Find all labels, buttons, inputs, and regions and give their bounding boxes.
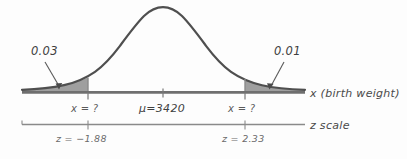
normal-curve xyxy=(22,7,305,90)
right-tail-probability-label: 0.01 xyxy=(274,46,301,58)
x-axis-tick-label-right: x = ? xyxy=(228,104,255,114)
right-tail-leader-arrow xyxy=(271,62,284,86)
z-axis-tick-label-positive: z = 2.33 xyxy=(222,134,265,144)
x-axis-tick-label-mean: μ=3420 xyxy=(139,103,185,114)
normal-distribution-figure: 0.03 0.01 x = ? μ=3420 x = ? x (birth we… xyxy=(0,0,407,159)
x-axis-label: x (birth weight) xyxy=(310,88,400,99)
left-tail-probability-label: 0.03 xyxy=(31,46,58,58)
z-axis-tick-label-negative: z = −1.88 xyxy=(56,134,107,144)
x-axis-tick-label-left: x = ? xyxy=(71,104,98,114)
z-axis-label: z scale xyxy=(310,120,350,131)
left-tail-leader-arrow xyxy=(45,62,59,86)
